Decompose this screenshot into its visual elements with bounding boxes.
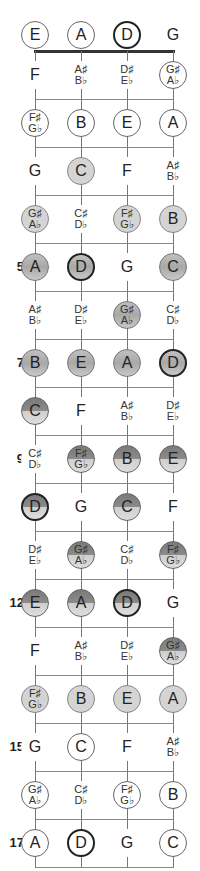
note-fret14-string-a: B [67,685,95,713]
note-fret17-string-d: G [113,829,141,857]
note-enharmonic-label: G♭ [120,795,134,806]
note-fret3-string-g: A♯B♭ [159,157,187,185]
note-enharmonic-label: D♭ [29,459,42,470]
note-fret11-string-g: F♯G♭ [159,541,187,569]
note-label: C [75,163,87,179]
note-fret13-string-a: A♯B♭ [67,637,95,665]
note-label: B [30,355,41,371]
note-fret0-string-a: A [67,21,95,49]
note-label: A [30,259,41,275]
note-enharmonic-label: A♭ [75,555,87,566]
note-fret3-string-e: G [21,157,49,185]
note-fret1-string-d: D♯E♭ [113,61,141,89]
fret-line-14 [35,723,174,724]
note-fret14-string-g: A [159,685,187,713]
fret-line-4 [35,243,174,244]
note-fret8-string-d: A♯B♭ [113,397,141,425]
note-enharmonic-label: A♭ [29,795,41,806]
note-fret6-string-d: G♯A♭ [113,301,141,329]
fret-line-7 [35,387,174,388]
note-fret16-string-e: G♯A♭ [21,781,49,809]
note-fret5-string-d: G [113,253,141,281]
note-label: D [121,595,133,611]
note-enharmonic-label: G♭ [120,219,134,230]
note-enharmonic-label: E♭ [121,75,133,86]
fret-line-6 [35,339,174,340]
nut [34,50,175,53]
note-enharmonic-label: G♭ [28,123,42,134]
note-label: E [122,115,133,131]
note-label: E [30,27,41,43]
note-label: B [168,787,179,803]
note-enharmonic-label: D♭ [75,795,88,806]
note-label: D [75,835,87,851]
note-enharmonic-label: G♭ [74,459,88,470]
note-label: B [122,451,133,467]
note-enharmonic-label: D♭ [121,555,134,566]
note-fret0-string-d: D [113,21,141,49]
note-label: B [76,691,87,707]
note-fret9-string-d: B [113,445,141,473]
note-fret2-string-g: A [159,109,187,137]
note-fret15-string-d: F [113,733,141,761]
note-label: C [75,739,87,755]
note-fret0-string-g: G [159,21,187,49]
note-enharmonic-label: E♭ [167,411,179,422]
note-enharmonic-label: B♭ [167,171,179,182]
note-label: D [121,27,133,43]
note-fret17-string-g: C [159,829,187,857]
note-fret3-string-a: C [67,157,95,185]
note-enharmonic-label: B♭ [167,747,179,758]
note-label: G [29,739,41,755]
fret-line-17 [35,867,174,868]
note-label: C [29,403,41,419]
note-enharmonic-label: D♭ [75,219,88,230]
note-enharmonic-label: E♭ [75,315,87,326]
note-fret10-string-g: F [159,493,187,521]
note-label: F [30,643,40,659]
note-fret14-string-e: F♯G♭ [21,685,49,713]
fret-line-9 [35,483,174,484]
note-label: D [75,259,87,275]
note-enharmonic-label: E♭ [121,651,133,662]
note-label: A [76,595,87,611]
note-label: G [121,259,133,275]
note-label: G [29,163,41,179]
note-fret4-string-g: B [159,205,187,233]
note-enharmonic-label: E♭ [29,555,41,566]
note-fret17-string-e: A [21,829,49,857]
note-fret9-string-g: E [159,445,187,473]
note-fret8-string-a: F [67,397,95,425]
note-label: G [121,835,133,851]
fret-line-16 [35,819,174,820]
note-label: G [167,27,179,43]
note-fret5-string-g: C [159,253,187,281]
note-enharmonic-label: G♭ [28,699,42,710]
note-label: F [76,403,86,419]
note-fret6-string-e: A♯B♭ [21,301,49,329]
note-enharmonic-label: B♭ [121,411,133,422]
note-fret2-string-d: E [113,109,141,137]
note-fret10-string-e: D [21,493,49,521]
note-fret9-string-e: C♯D♭ [21,445,49,473]
note-label: C [121,499,133,515]
note-fret3-string-d: F [113,157,141,185]
note-fret4-string-a: C♯D♭ [67,205,95,233]
note-fret12-string-d: D [113,589,141,617]
note-label: C [167,835,179,851]
note-fret15-string-e: G [21,733,49,761]
note-fret15-string-g: A♯B♭ [159,733,187,761]
note-fret16-string-a: C♯D♭ [67,781,95,809]
note-enharmonic-label: A♭ [29,219,41,230]
note-fret5-string-a: D [67,253,95,281]
fret-line-12 [35,627,174,628]
note-enharmonic-label: A♭ [121,315,133,326]
note-fret4-string-e: G♯A♭ [21,205,49,233]
note-label: G [167,595,179,611]
note-label: A [168,115,179,131]
note-label: A [76,27,87,43]
note-label: B [168,211,179,227]
note-enharmonic-label: D♭ [167,315,180,326]
note-label: C [167,259,179,275]
note-enharmonic-label: B♭ [75,75,87,86]
